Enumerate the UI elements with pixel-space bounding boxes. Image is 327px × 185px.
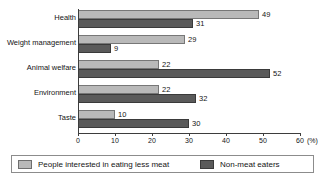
legend-swatch-light-icon xyxy=(18,160,32,169)
bar-value-weight-management-nonmeat: 9 xyxy=(114,44,118,53)
bar-health-nonmeat xyxy=(78,19,193,28)
chart-legend: People interested in eating less meat No… xyxy=(11,155,314,173)
bar-chart: Health Weight management Animal welfare … xyxy=(0,0,327,185)
bar-taste-interested xyxy=(78,110,115,119)
legend-item-nonmeat: Non-meat eaters xyxy=(200,159,280,170)
x-tick-10 xyxy=(115,133,116,136)
legend-swatch-dark-icon xyxy=(200,160,214,169)
category-label-weight-management: Weight management xyxy=(7,38,76,47)
x-tick-label-60: 60 xyxy=(296,137,304,145)
bar-taste-nonmeat xyxy=(78,119,189,128)
bar-environment-interested xyxy=(78,85,159,94)
x-tick-0 xyxy=(78,133,79,136)
bar-environment-nonmeat xyxy=(78,94,196,103)
x-tick-20 xyxy=(152,133,153,136)
bar-value-health-interested: 49 xyxy=(262,10,270,19)
bar-value-health-nonmeat: 31 xyxy=(196,19,204,28)
category-label-animal-welfare: Animal welfare xyxy=(27,63,76,72)
bar-value-taste-interested: 10 xyxy=(118,110,126,119)
bar-value-animal-welfare-interested: 22 xyxy=(162,60,170,69)
bar-value-environment-interested: 22 xyxy=(162,85,170,94)
legend-item-interested: People interested in eating less meat xyxy=(18,159,169,170)
footnote-cropped xyxy=(120,178,310,185)
x-tick-60 xyxy=(300,133,301,136)
category-label-environment: Environment xyxy=(34,88,76,97)
x-tick-30 xyxy=(189,133,190,136)
legend-label-interested: People interested in eating less meat xyxy=(38,160,169,170)
category-label-health: Health xyxy=(54,13,76,22)
x-tick-label-50: 50 xyxy=(259,137,267,145)
x-tick-50 xyxy=(263,133,264,136)
x-tick-label-0: 0 xyxy=(76,137,80,145)
bar-animal-welfare-interested xyxy=(78,60,159,69)
x-tick-40 xyxy=(226,133,227,136)
bar-value-environment-nonmeat: 32 xyxy=(199,94,207,103)
x-tick-label-30: 30 xyxy=(185,137,193,145)
plot-area: Health Weight management Animal welfare … xyxy=(0,0,327,140)
bar-animal-welfare-nonmeat xyxy=(78,69,270,78)
x-axis-unit-label: (%) xyxy=(307,137,318,145)
category-label-taste: Taste xyxy=(58,113,76,122)
bar-weight-management-nonmeat xyxy=(78,44,111,53)
bar-value-weight-management-interested: 29 xyxy=(188,35,196,44)
x-tick-label-20: 20 xyxy=(148,137,156,145)
bar-value-taste-nonmeat: 30 xyxy=(192,119,200,128)
bar-weight-management-interested xyxy=(78,35,185,44)
y-axis-line xyxy=(78,9,79,133)
legend-label-nonmeat: Non-meat eaters xyxy=(220,160,280,170)
bar-health-interested xyxy=(78,10,259,19)
x-tick-label-10: 10 xyxy=(111,137,119,145)
x-tick-label-40: 40 xyxy=(222,137,230,145)
bar-value-animal-welfare-nonmeat: 52 xyxy=(273,69,281,78)
